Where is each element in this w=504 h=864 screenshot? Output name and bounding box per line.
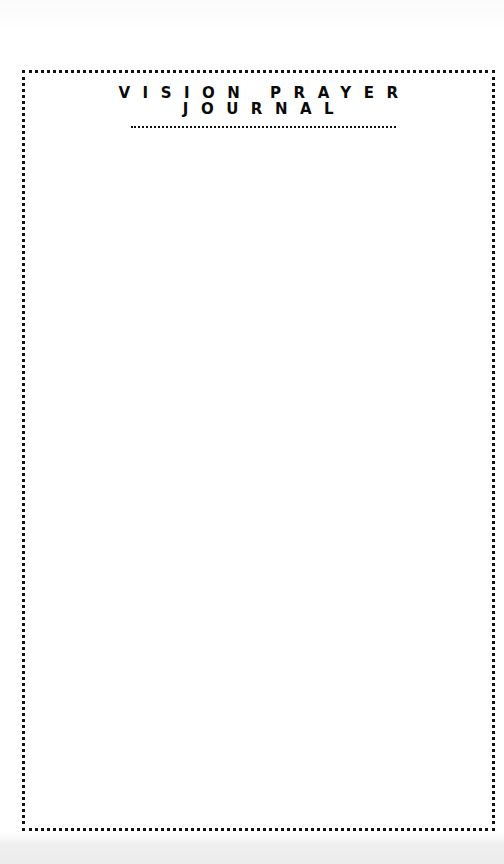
journal-title: VISION PRAYER JOURNAL (25, 85, 492, 117)
title-line-2: JOURNAL (25, 101, 492, 117)
journal-page: VISION PRAYER JOURNAL (0, 0, 504, 864)
dotted-page-border: VISION PRAYER JOURNAL (22, 70, 495, 831)
title-dotted-underline (131, 126, 396, 128)
journal-writing-area (25, 143, 492, 828)
title-line-1: VISION PRAYER (25, 85, 492, 101)
